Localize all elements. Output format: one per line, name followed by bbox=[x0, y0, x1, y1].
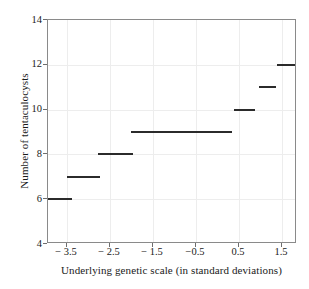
y-tick-label-1: 6 bbox=[16, 193, 42, 204]
y-tick-label-2: 8 bbox=[16, 148, 42, 159]
x-tick-label-wrap-1: − 2.5 bbox=[87, 246, 131, 258]
figure-container: Number of tentaculocysts Underlying gene… bbox=[0, 0, 309, 289]
y-tick-mark-4 bbox=[43, 64, 47, 65]
plot-area bbox=[47, 19, 296, 243]
x-tick-label-wrap-0: − 3.5 bbox=[44, 246, 88, 258]
step-segment-9 bbox=[131, 131, 232, 133]
y-tick-label-wrap-3: 10 bbox=[0, 103, 42, 114]
step-segment-6 bbox=[48, 198, 72, 200]
x-tick-label-1: − 2.5 bbox=[87, 246, 131, 258]
y-tick-label-wrap-4: 12 bbox=[0, 58, 42, 69]
step-segment-12 bbox=[277, 64, 296, 66]
y-tick-label-3: 10 bbox=[16, 103, 42, 114]
x-axis-title: Underlying genetic scale (in standard de… bbox=[47, 264, 296, 277]
y-tick-label-5: 14 bbox=[16, 14, 42, 25]
y-axis-title: Number of tentaculocysts bbox=[16, 19, 32, 243]
x-tick-label-wrap-3: −0.5 bbox=[173, 246, 217, 258]
x-tick-label-4: 0.5 bbox=[216, 246, 260, 258]
y-tick-label-wrap-1: 6 bbox=[0, 193, 42, 204]
step-segment-10 bbox=[234, 109, 255, 111]
y-tick-mark-0 bbox=[43, 243, 47, 244]
y-tick-label-wrap-5: 14 bbox=[0, 14, 42, 25]
gridline-horizontal-1 bbox=[48, 199, 295, 200]
y-tick-label-wrap-2: 8 bbox=[0, 148, 42, 159]
gridline-horizontal-4 bbox=[48, 65, 295, 66]
x-tick-label-wrap-5: 1.5 bbox=[259, 246, 303, 258]
y-tick-mark-3 bbox=[43, 109, 47, 110]
gridline-vertical-4 bbox=[239, 20, 240, 242]
y-tick-mark-2 bbox=[43, 153, 47, 154]
gridline-vertical-0 bbox=[67, 20, 68, 242]
gridline-horizontal-2 bbox=[48, 154, 295, 155]
y-tick-label-wrap-0: 4 bbox=[0, 238, 42, 249]
y-tick-label-4: 12 bbox=[16, 58, 42, 69]
gridline-vertical-1 bbox=[110, 20, 111, 242]
step-segment-7 bbox=[67, 176, 100, 178]
x-tick-label-wrap-2: − 1.5 bbox=[130, 246, 174, 258]
y-tick-mark-5 bbox=[43, 19, 47, 20]
x-tick-label-wrap-4: 0.5 bbox=[216, 246, 260, 258]
x-tick-label-0: − 3.5 bbox=[44, 246, 88, 258]
gridline-horizontal-3 bbox=[48, 110, 295, 111]
x-tick-label-5: 1.5 bbox=[259, 246, 303, 258]
x-tick-label-3: −0.5 bbox=[173, 246, 217, 258]
x-tick-label-2: − 1.5 bbox=[130, 246, 174, 258]
gridline-vertical-5 bbox=[282, 20, 283, 242]
y-tick-mark-1 bbox=[43, 198, 47, 199]
step-segment-8 bbox=[98, 153, 133, 155]
y-tick-label-0: 4 bbox=[16, 238, 42, 249]
step-segment-11 bbox=[259, 86, 276, 88]
